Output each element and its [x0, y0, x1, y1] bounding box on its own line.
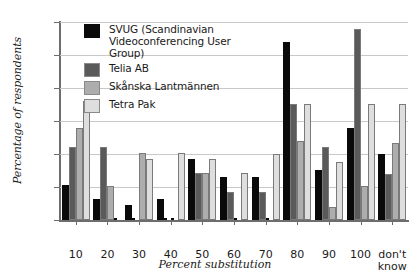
legend-swatch	[84, 99, 100, 113]
bar	[399, 104, 406, 220]
legend-swatch	[84, 24, 100, 38]
bar	[252, 177, 259, 220]
bar	[227, 192, 234, 220]
bar	[107, 186, 114, 220]
bar	[322, 147, 329, 220]
x-tick-mark	[76, 220, 77, 225]
x-tick-mark	[202, 220, 203, 225]
bar	[209, 159, 216, 220]
legend-label: SVUG (Scandinavian Videoconferencing Use…	[109, 23, 264, 59]
x-tick-mark	[139, 220, 140, 225]
bar	[139, 153, 146, 220]
bar	[83, 101, 90, 220]
bar	[76, 128, 83, 220]
bar	[259, 192, 266, 220]
x-tick-label: don't know	[362, 249, 415, 272]
bar	[114, 218, 117, 220]
chart-legend: SVUG (Scandinavian Videoconferencing Use…	[84, 23, 264, 116]
x-tick-mark	[329, 220, 330, 225]
bar	[62, 185, 69, 220]
legend-item: Tetra Pak	[84, 98, 264, 113]
bar	[146, 159, 153, 220]
bar	[336, 162, 343, 220]
bar	[93, 199, 100, 220]
bar	[100, 147, 107, 220]
x-tick-mark	[297, 220, 298, 225]
bar-group: 80	[281, 22, 313, 220]
legend-label: Tetra Pak	[109, 98, 155, 110]
bar	[297, 141, 304, 220]
bar	[368, 104, 375, 220]
y-axis-label: Percentage of respondents	[11, 21, 24, 201]
bar	[125, 205, 132, 220]
bar-group: 90	[313, 22, 345, 220]
bar	[392, 143, 399, 220]
bar-group: 100	[345, 22, 377, 220]
legend-label: Skånska Lantmännen	[109, 80, 219, 92]
bar	[315, 170, 322, 220]
bar	[304, 104, 311, 220]
bar	[241, 173, 248, 220]
bar	[178, 153, 185, 220]
bar	[283, 42, 290, 220]
bar	[202, 173, 209, 220]
legend-item: Skånska Lantmännen	[84, 80, 264, 95]
bar-group: don't know	[376, 22, 408, 220]
bar	[132, 218, 135, 220]
x-tick-mark	[361, 220, 362, 225]
bar	[273, 154, 280, 220]
x-tick-mark	[392, 220, 393, 225]
bar	[385, 174, 392, 220]
legend-label: Telia AB	[109, 62, 149, 74]
x-tick-mark	[266, 220, 267, 225]
bar	[329, 207, 336, 220]
bar	[354, 29, 361, 220]
legend-item: Telia AB	[84, 62, 264, 77]
bar	[220, 177, 227, 220]
x-tick-mark	[234, 220, 235, 225]
legend-item: SVUG (Scandinavian Videoconferencing Use…	[84, 23, 264, 59]
bar	[69, 147, 76, 220]
y-tick-mark	[54, 220, 60, 221]
x-tick-mark	[107, 220, 108, 225]
legend-swatch	[84, 81, 100, 95]
bar	[361, 186, 368, 220]
bar	[290, 104, 297, 220]
x-tick-mark	[171, 220, 172, 225]
bar	[164, 218, 167, 220]
bar	[347, 128, 354, 220]
bar	[378, 154, 385, 220]
bar	[195, 173, 202, 220]
bar	[157, 199, 164, 220]
bar-chart: Percentage of respondents Percent substi…	[0, 0, 415, 280]
legend-swatch	[84, 63, 100, 77]
bar	[188, 159, 195, 220]
